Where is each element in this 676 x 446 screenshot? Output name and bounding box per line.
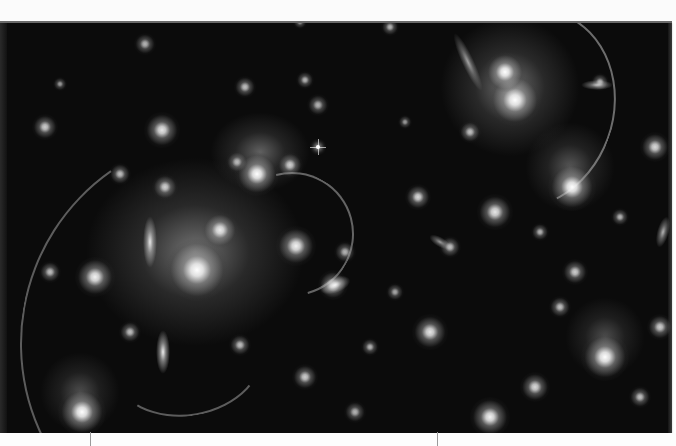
- image-right-edge: [668, 23, 672, 434]
- galaxy: [531, 223, 549, 241]
- galaxy: [234, 76, 256, 98]
- galaxy: [412, 314, 447, 349]
- galaxy: [485, 52, 525, 92]
- foreground-star: [316, 145, 320, 149]
- galaxy: [470, 397, 510, 434]
- galaxy: [75, 257, 115, 297]
- galaxy: [144, 112, 179, 147]
- galaxy: [119, 321, 141, 343]
- galaxy: [229, 334, 251, 356]
- galaxy: [166, 239, 228, 301]
- galaxy: [293, 21, 306, 29]
- galaxy: [439, 236, 461, 258]
- galaxy: [53, 77, 66, 90]
- galaxy: [386, 283, 404, 301]
- galaxy: [548, 163, 596, 211]
- galaxy: [318, 270, 349, 301]
- tick-mark: [90, 432, 91, 446]
- galaxy: [562, 259, 588, 285]
- tick-mark: [437, 432, 438, 446]
- galaxy: [109, 163, 131, 185]
- galaxy: [32, 114, 58, 140]
- galaxy: [277, 152, 303, 178]
- galaxy-halo: [440, 21, 580, 157]
- lensing-arc: [101, 289, 272, 428]
- elongated-galaxy: [156, 330, 170, 374]
- galaxy: [276, 226, 316, 266]
- galaxy: [235, 152, 279, 196]
- galaxy: [581, 333, 629, 381]
- galaxy: [307, 94, 329, 116]
- galaxy: [520, 372, 551, 403]
- galaxy: [344, 401, 366, 423]
- lensing-arc: [410, 21, 643, 235]
- galaxy: [549, 296, 571, 318]
- galaxy: [58, 388, 106, 434]
- galaxy: [477, 194, 512, 229]
- elongated-galaxy: [449, 30, 487, 93]
- elongated-galaxy: [143, 216, 157, 268]
- galaxy-halo: [210, 112, 310, 192]
- galaxy: [398, 115, 411, 128]
- elongated-galaxy: [427, 232, 453, 253]
- galaxy: [361, 338, 379, 356]
- galaxy: [459, 121, 481, 143]
- lensing-arc: [0, 98, 478, 434]
- galaxy: [226, 151, 248, 173]
- galaxy: [591, 73, 609, 91]
- galaxy: [292, 364, 318, 390]
- galaxy-halo: [525, 122, 615, 212]
- galaxy: [489, 74, 542, 127]
- galaxy: [405, 184, 431, 210]
- lensing-arc: [207, 149, 376, 318]
- elongated-galaxy: [581, 80, 613, 90]
- galaxy-halo: [565, 297, 645, 377]
- galaxy: [629, 386, 651, 408]
- page-top-margin: [0, 0, 676, 21]
- page-bottom-margin: [0, 433, 676, 446]
- galaxy: [381, 21, 399, 36]
- galaxy: [296, 71, 314, 89]
- galaxy-halo: [85, 157, 305, 347]
- galaxy: [334, 241, 356, 263]
- galaxy-cluster-image: [0, 21, 672, 434]
- galaxy: [39, 261, 61, 283]
- galaxy-halo: [40, 352, 120, 432]
- image-left-edge: [0, 23, 7, 434]
- galaxy: [134, 33, 156, 55]
- galaxy: [640, 132, 671, 163]
- galaxy: [202, 212, 237, 247]
- elongated-galaxy: [317, 272, 353, 298]
- galaxy: [152, 174, 178, 200]
- galaxy: [611, 208, 629, 226]
